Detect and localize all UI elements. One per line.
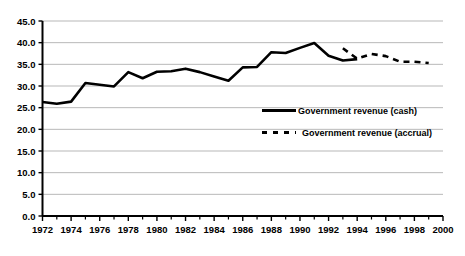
- y-tick-label-30: 30.0: [17, 81, 36, 92]
- y-tick-label-40: 40.0: [17, 37, 36, 48]
- x-tick-label-1998: 1998: [404, 224, 425, 235]
- x-tick-label-1990: 1990: [289, 224, 310, 235]
- x-axis-tick-labels: 1972197419761978198019821984198619881990…: [32, 224, 454, 235]
- legend-label-cash: Government revenue (cash): [298, 106, 417, 116]
- chart-container: 0.05.010.015.020.025.030.035.040.045.0 1…: [0, 0, 465, 256]
- x-tick-label-2000: 2000: [432, 224, 453, 235]
- x-tick-label-1982: 1982: [175, 224, 196, 235]
- legend-label-accrual: Government revenue (accrual): [302, 128, 432, 138]
- revenue-line-chart: 0.05.010.015.020.025.030.035.040.045.0 1…: [0, 0, 465, 256]
- y-tick-label-35: 35.0: [17, 59, 36, 70]
- y-tick-label-10: 10.0: [17, 167, 36, 178]
- x-tick-label-1986: 1986: [232, 224, 253, 235]
- y-tick-label-5: 5.0: [22, 189, 35, 200]
- y-tick-label-15: 15.0: [17, 146, 36, 157]
- x-tick-label-1996: 1996: [375, 224, 396, 235]
- y-tick-label-25: 25.0: [17, 102, 36, 113]
- x-tick-label-1994: 1994: [347, 224, 369, 235]
- y-tick-label-45: 45.0: [17, 16, 36, 27]
- x-tick-label-1976: 1976: [89, 224, 110, 235]
- x-tick-label-1978: 1978: [118, 224, 139, 235]
- x-tick-label-1974: 1974: [61, 224, 83, 235]
- x-tick-label-1988: 1988: [261, 224, 282, 235]
- x-tick-label-1972: 1972: [32, 224, 53, 235]
- x-tick-label-1992: 1992: [318, 224, 339, 235]
- y-tick-label-0: 0.0: [22, 211, 35, 222]
- x-tick-label-1980: 1980: [146, 224, 167, 235]
- x-tick-label-1984: 1984: [204, 224, 226, 235]
- y-tick-label-20: 20.0: [17, 124, 36, 135]
